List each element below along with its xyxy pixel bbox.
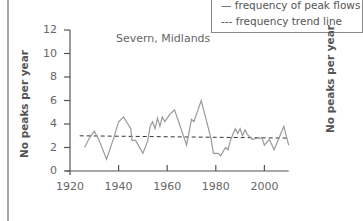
peak-flows-line xyxy=(85,101,289,160)
axes xyxy=(64,30,289,175)
